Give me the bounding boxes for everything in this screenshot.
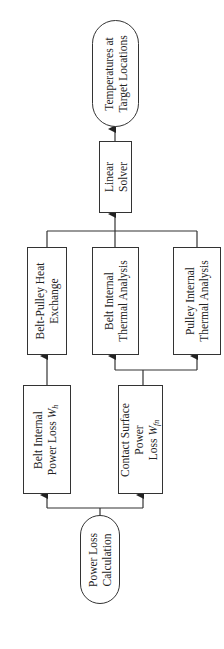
node-pulley-internal-thermal-analysis: Pulley Internal Thermal Analysis <box>173 247 221 355</box>
node-label: Pulley Internal Thermal Analysis <box>183 260 211 341</box>
node-contact-surface-power-loss: Contact Surface Power Loss Wfn <box>118 385 163 494</box>
node-label: Belt-Pulley Heat Exchange <box>33 263 61 340</box>
node-power-loss-calculation: Power Loss Calculation <box>80 515 120 604</box>
node-label: Contact Surface Power Loss Wfn <box>118 403 164 477</box>
node-belt-internal-power-loss: Belt Internal Power Loss Wh <box>23 385 71 494</box>
node-label: Belt Internal Power Loss Wh <box>31 404 63 474</box>
node-temperatures-at-target-locations: Temperatures at Target Locations <box>92 20 139 127</box>
node-label: Temperatures at Target Locations <box>102 35 130 112</box>
node-belt-pulley-heat-exchange: Belt-Pulley Heat Exchange <box>27 247 67 355</box>
node-linear-solver: Linear Solver <box>99 141 132 213</box>
node-label: Belt Internal Thermal Analysis <box>102 260 130 341</box>
node-label: Power Loss Calculation <box>86 533 114 587</box>
node-belt-internal-thermal-analysis: Belt Internal Thermal Analysis <box>92 247 139 355</box>
node-label: Linear Solver <box>102 162 130 192</box>
